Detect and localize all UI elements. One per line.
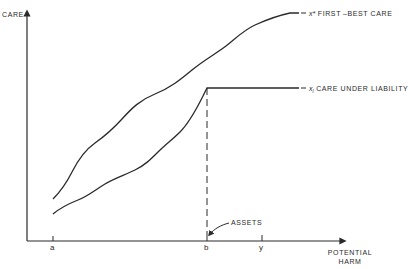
y-axis-label: CARE <box>2 11 24 18</box>
x-axis-label-line2: HARM <box>320 258 380 265</box>
first-best-symbol: x* <box>309 10 315 17</box>
liability-subscript: l <box>313 88 314 94</box>
tick-label-y: y <box>259 244 263 252</box>
assets-annotation: ASSETS <box>231 219 262 226</box>
liability-symbol: xl <box>309 85 314 92</box>
first-best-text: FIRST –BEST CARE <box>318 10 393 17</box>
assets-arrow <box>210 223 229 234</box>
x-axis-label: POTENTIAL HARM <box>320 249 380 265</box>
first-best-care-curve <box>53 13 299 199</box>
tick-label-a: a <box>50 244 54 252</box>
x-axis-label-line1: POTENTIAL <box>320 249 380 256</box>
tick-label-b: b <box>204 244 208 252</box>
care-under-liability-curve <box>53 88 299 214</box>
liability-text: CARE UNDER LIABILITY <box>316 85 408 92</box>
first-best-care-label: x* FIRST –BEST CARE <box>309 10 392 17</box>
care-under-liability-label: xl CARE UNDER LIABILITY <box>309 85 408 94</box>
